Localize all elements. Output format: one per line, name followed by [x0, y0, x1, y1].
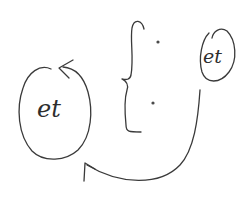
- brace-item-dot-2: [151, 101, 154, 104]
- left-node-label: et: [37, 95, 61, 123]
- curly-brace: [122, 21, 144, 132]
- brace-item-dot-1: [156, 40, 159, 43]
- return-arrow-curve: [87, 90, 200, 180]
- right-node-label: et: [203, 45, 222, 67]
- return-arrowhead-icon: [84, 163, 95, 181]
